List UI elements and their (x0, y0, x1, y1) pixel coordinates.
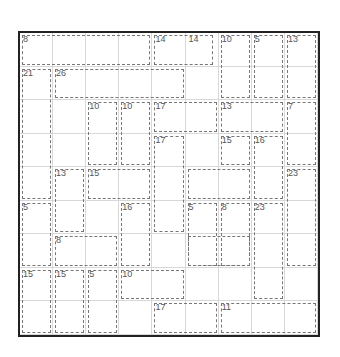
grid-cell[interactable] (219, 268, 252, 302)
grid-cell[interactable] (186, 234, 219, 268)
grid-cell[interactable]: 13 (219, 100, 252, 134)
grid-cell[interactable]: 14 (186, 33, 219, 67)
grid-cell[interactable] (20, 100, 53, 134)
grid-cell[interactable] (186, 268, 219, 302)
grid-cell[interactable]: 5 (86, 268, 119, 302)
grid-cell[interactable] (20, 134, 53, 168)
cage-sum-clue: 5 (89, 270, 94, 279)
cage-sum-clue: 17 (155, 303, 165, 312)
grid-cell[interactable]: 10 (119, 100, 152, 134)
grid-cell[interactable]: 7 (285, 100, 318, 134)
grid-cell[interactable] (252, 167, 285, 201)
grid-cell[interactable] (186, 301, 219, 335)
grid-cell[interactable] (285, 301, 318, 335)
grid-cell[interactable]: 17 (152, 301, 185, 335)
grid-cell[interactable] (285, 201, 318, 235)
grid-cell[interactable] (20, 167, 53, 201)
cage-sum-clue: 16 (122, 203, 132, 212)
cage-sum-clue: 10 (122, 102, 132, 111)
grid-cell[interactable] (252, 100, 285, 134)
grid-cell[interactable] (252, 268, 285, 302)
grid-cell[interactable]: 10 (86, 100, 119, 134)
grid-cell[interactable] (186, 67, 219, 101)
grid-cell[interactable] (152, 67, 185, 101)
grid-cell[interactable] (285, 134, 318, 168)
grid-cell[interactable]: 15 (219, 134, 252, 168)
grid-cell[interactable]: 21 (20, 67, 53, 101)
grid-cell[interactable] (219, 167, 252, 201)
grid-cell[interactable]: 8 (219, 201, 252, 235)
grid-cell[interactable]: 13 (285, 33, 318, 67)
grid-cell[interactable] (285, 67, 318, 101)
grid-cell[interactable] (186, 100, 219, 134)
grid-cell[interactable] (252, 301, 285, 335)
grid-cell[interactable]: 23 (285, 167, 318, 201)
grid-cell[interactable] (152, 268, 185, 302)
grid-cell[interactable]: 8 (20, 33, 53, 67)
grid-cell[interactable] (219, 234, 252, 268)
grid-cell[interactable] (219, 67, 252, 101)
grid-cell[interactable] (119, 134, 152, 168)
grid-cell[interactable]: 5 (186, 201, 219, 235)
grid-cell[interactable] (119, 33, 152, 67)
cage-sum-clue: 13 (222, 102, 232, 111)
grid-cell[interactable] (152, 201, 185, 235)
cage-sum-clue: 8 (222, 203, 227, 212)
grid-cell[interactable] (86, 201, 119, 235)
grid-cell[interactable]: 14 (152, 33, 185, 67)
grid-cell[interactable] (53, 100, 86, 134)
grid-cell[interactable] (53, 134, 86, 168)
cage-sum-clue: 5 (189, 203, 194, 212)
cage-sum-clue: 11 (222, 303, 231, 312)
grid-cell[interactable]: 16 (252, 134, 285, 168)
grid-cell[interactable] (119, 167, 152, 201)
cage-sum-clue: 23 (288, 169, 298, 178)
grid-cell[interactable] (53, 201, 86, 235)
grid-cell[interactable]: 26 (53, 67, 86, 101)
grid-cell[interactable]: 5 (252, 33, 285, 67)
grid-cell[interactable] (252, 67, 285, 101)
grid-cell[interactable]: 11 (219, 301, 252, 335)
grid-cell[interactable] (285, 234, 318, 268)
cage-sum-clue: 26 (56, 69, 66, 78)
grid-cell[interactable] (152, 167, 185, 201)
grid-cell[interactable]: 10 (119, 268, 152, 302)
grid-cell[interactable]: 15 (53, 268, 86, 302)
cage-sum-clue: 15 (56, 270, 66, 279)
grid-cell[interactable] (20, 234, 53, 268)
grid-cell[interactable] (86, 67, 119, 101)
grid-cell[interactable]: 8 (53, 234, 86, 268)
grid-cell[interactable] (86, 234, 119, 268)
grid-cell[interactable] (86, 33, 119, 67)
grid-cell[interactable]: 13 (53, 167, 86, 201)
grid-cell[interactable] (86, 134, 119, 168)
cage-sum-clue: 5 (255, 35, 260, 44)
grid-cell[interactable] (119, 234, 152, 268)
grid-cell[interactable]: 10 (219, 33, 252, 67)
grid-cell[interactable] (53, 33, 86, 67)
cage-sum-clue: 10 (222, 35, 232, 44)
grid-cell[interactable] (53, 301, 86, 335)
grid-cell[interactable]: 15 (86, 167, 119, 201)
grid-cell[interactable] (152, 234, 185, 268)
cage-sum-clue: 7 (288, 102, 293, 111)
grid-cell[interactable]: 16 (119, 201, 152, 235)
cage-sum-clue: 8 (23, 35, 28, 44)
grid-cell[interactable] (119, 67, 152, 101)
cage-sum-clue: 10 (122, 270, 132, 279)
grid-cell[interactable]: 15 (20, 268, 53, 302)
grid-cell[interactable] (119, 301, 152, 335)
grid-cell[interactable]: 23 (252, 201, 285, 235)
cage-sum-clue: 15 (89, 169, 99, 178)
grid-cell[interactable] (20, 301, 53, 335)
grid-cell[interactable] (86, 301, 119, 335)
grid-cell[interactable]: 17 (152, 100, 185, 134)
cage-sum-clue: 13 (288, 35, 298, 44)
grid-cell[interactable]: 5 (20, 201, 53, 235)
grid-cell[interactable] (186, 134, 219, 168)
grid-cell[interactable] (285, 268, 318, 302)
grid-cell[interactable]: 17 (152, 134, 185, 168)
grid-cell[interactable] (252, 234, 285, 268)
grid-cell[interactable] (186, 167, 219, 201)
cage-sum-clue: 15 (222, 136, 232, 145)
